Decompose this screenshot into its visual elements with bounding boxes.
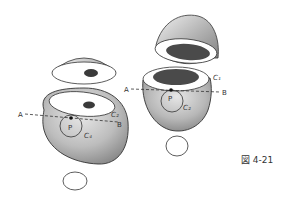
left-label-c2: C₂ (111, 111, 119, 119)
right-label-c1: C₁ (213, 74, 221, 82)
right-label-p: P (168, 95, 172, 103)
figure-caption: 図 4-21 (241, 153, 273, 166)
left-label-p: P (68, 124, 72, 132)
left-figure: A B P C₂ C₄ (18, 58, 128, 190)
left-label-b: B (117, 121, 122, 129)
left-label-a: A (18, 111, 23, 119)
right-body (131, 67, 220, 131)
right-figure: A B P C₁ C₂ (124, 15, 227, 156)
left-label-c4: C₄ (84, 132, 92, 140)
right-cross-section-circle (166, 136, 188, 156)
right-label-c2: C₂ (183, 104, 191, 112)
diagram-canvas: A B P C₂ C₄ A B P C₁ C₂ (0, 0, 285, 200)
right-label-a: A (124, 86, 129, 94)
right-label-b: B (222, 89, 227, 97)
right-dome-cap (154, 15, 218, 66)
left-body (25, 88, 128, 164)
left-lid (52, 58, 116, 84)
left-cross-section-circle (63, 172, 87, 190)
